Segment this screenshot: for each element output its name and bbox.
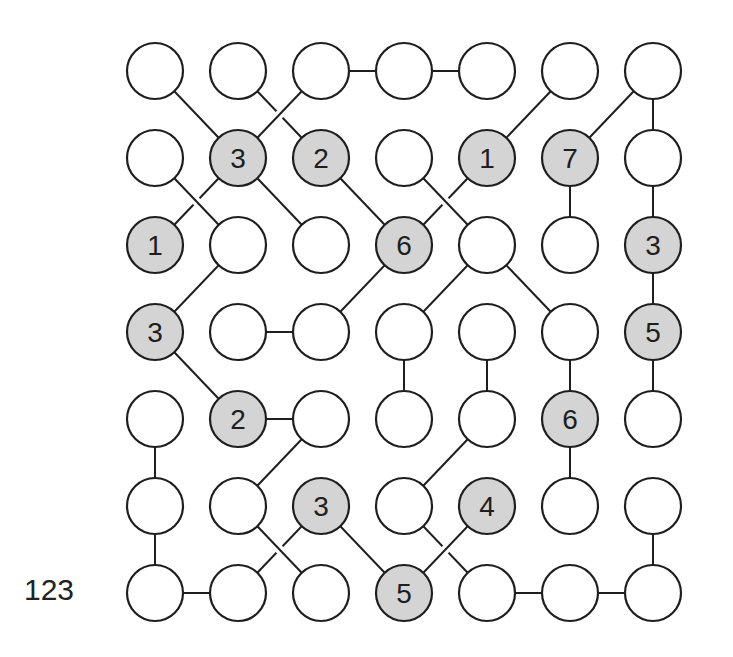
clue-number: 6 [396, 230, 412, 261]
node-circle [542, 43, 598, 99]
node-circle [127, 391, 183, 447]
empty-node [376, 391, 432, 447]
node-circle [376, 304, 432, 360]
clue-number: 5 [396, 578, 412, 609]
empty-node [376, 478, 432, 534]
empty-node [127, 391, 183, 447]
empty-node [127, 565, 183, 621]
empty-node [542, 478, 598, 534]
clue-node: 2 [210, 391, 266, 447]
clue-number: 6 [562, 404, 578, 435]
node-circle [127, 478, 183, 534]
node-circle [293, 43, 349, 99]
node-circle [459, 391, 515, 447]
clue-node: 5 [625, 304, 681, 360]
clue-node: 6 [542, 391, 598, 447]
empty-node [127, 130, 183, 186]
node-circle [293, 565, 349, 621]
node-circle [542, 565, 598, 621]
clue-node: 1 [459, 130, 515, 186]
node-circle [625, 478, 681, 534]
node-circle [210, 217, 266, 273]
node-circle [459, 304, 515, 360]
empty-node [293, 304, 349, 360]
clue-node: 3 [127, 304, 183, 360]
empty-node [210, 217, 266, 273]
node-circle [376, 43, 432, 99]
node-circle [376, 478, 432, 534]
clue-node: 4 [459, 478, 515, 534]
node-circle [293, 391, 349, 447]
clue-number: 1 [479, 143, 495, 174]
empty-node [625, 391, 681, 447]
empty-node [625, 43, 681, 99]
empty-node [210, 565, 266, 621]
empty-node [293, 43, 349, 99]
clue-number: 3 [230, 143, 246, 174]
empty-node [376, 304, 432, 360]
clue-number: 3 [147, 317, 163, 348]
clue-number: 3 [313, 491, 329, 522]
clue-number: 3 [645, 230, 661, 261]
node-circle [210, 478, 266, 534]
node-circle [459, 217, 515, 273]
empty-node [542, 304, 598, 360]
clue-number: 2 [313, 143, 329, 174]
empty-node [376, 130, 432, 186]
clue-node: 7 [542, 130, 598, 186]
node-circle [459, 43, 515, 99]
node-circle [459, 565, 515, 621]
node-circle [293, 304, 349, 360]
empty-node [625, 478, 681, 534]
empty-node [127, 43, 183, 99]
empty-node [210, 43, 266, 99]
empty-node [625, 565, 681, 621]
puzzle-id-label: 123 [24, 573, 74, 607]
node-circle [376, 391, 432, 447]
clue-number: 2 [230, 404, 246, 435]
empty-node [625, 130, 681, 186]
empty-node [210, 304, 266, 360]
node-circle [542, 478, 598, 534]
clue-node: 1 [127, 217, 183, 273]
puzzle-diagram: 32171633526345 [0, 0, 733, 657]
empty-node [459, 304, 515, 360]
clue-node: 3 [293, 478, 349, 534]
empty-node [542, 565, 598, 621]
empty-node [459, 217, 515, 273]
clue-node: 2 [293, 130, 349, 186]
clue-number: 7 [562, 143, 578, 174]
empty-node [459, 43, 515, 99]
node-circle [293, 217, 349, 273]
empty-node [542, 217, 598, 273]
empty-node [459, 565, 515, 621]
node-circle [127, 43, 183, 99]
empty-node [459, 391, 515, 447]
node-circle [376, 130, 432, 186]
node-circle [625, 43, 681, 99]
clue-number: 1 [147, 230, 163, 261]
node-circle [127, 130, 183, 186]
clue-number: 4 [479, 491, 495, 522]
empty-node [210, 478, 266, 534]
node-circle [625, 391, 681, 447]
empty-node [293, 565, 349, 621]
empty-node [293, 391, 349, 447]
node-circle [210, 43, 266, 99]
clue-node: 6 [376, 217, 432, 273]
clue-node: 3 [625, 217, 681, 273]
node-circle [542, 217, 598, 273]
empty-node [542, 43, 598, 99]
node-circle [210, 304, 266, 360]
empty-node [376, 43, 432, 99]
node-circle [127, 565, 183, 621]
clue-node: 5 [376, 565, 432, 621]
node-circle [625, 565, 681, 621]
node-circle [625, 130, 681, 186]
empty-node [293, 217, 349, 273]
node-circle [542, 304, 598, 360]
clue-node: 3 [210, 130, 266, 186]
empty-node [127, 478, 183, 534]
node-circle [210, 565, 266, 621]
clue-number: 5 [645, 317, 661, 348]
